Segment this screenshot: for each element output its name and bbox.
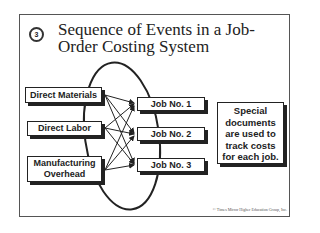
source-direct-materials: Direct Materials [25,87,102,103]
source-manufacturing-overhead: Manufacturing Overhead [27,156,102,182]
cost-flow-arrows [105,95,134,170]
job-label: Job No. 1 [151,99,192,109]
source-label-line-2: Overhead [44,170,86,179]
note-line: track costs [218,140,283,152]
note-line: documents [218,117,283,129]
special-documents-note: Special documents are used to track cost… [217,102,284,164]
source-label-line-1: Manufacturing [34,159,96,168]
source-label: Direct Materials [30,91,97,100]
job-box-2: Job No. 2 [137,127,205,141]
source-direct-labor: Direct Labor [27,121,102,136]
note-line: for each job. [218,151,283,163]
job-box-1: Job No. 1 [137,97,205,111]
copyright-notice: © Times Mirror Higher Education Group, I… [213,207,287,212]
source-label: Direct Labor [38,124,91,133]
job-box-3: Job No. 3 [137,158,205,172]
note-line: Special [218,105,283,117]
job-label: Job No. 2 [151,129,192,139]
job-label: Job No. 3 [151,160,192,170]
note-line: are used to [218,128,283,140]
